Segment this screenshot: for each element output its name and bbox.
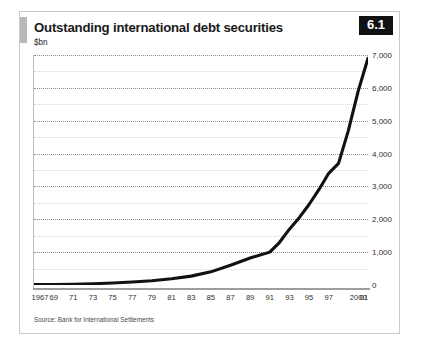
x-axis-tick-label: 87	[226, 293, 234, 302]
x-axis-tick-label: 95	[305, 293, 313, 302]
title-accent-bar	[20, 17, 27, 43]
x-axis-tick-label: 85	[207, 293, 215, 302]
x-axis-tick-label: 89	[246, 293, 254, 302]
x-axis-tick-label: 79	[148, 293, 156, 302]
source-note: Source: Bank for International Settlemen…	[34, 316, 154, 323]
x-axis-tick-label: 69	[49, 293, 57, 302]
y-axis-tick-label: 7,000	[372, 51, 392, 60]
y-axis-tick-label: 6,000	[372, 83, 392, 92]
y-axis-tick-label: 3,000	[372, 182, 392, 191]
x-axis-tick-label: 77	[128, 293, 136, 302]
x-axis-tick-label: 93	[285, 293, 293, 302]
y-axis-tick-label: 5,000	[372, 116, 392, 125]
chart-number-badge: 6.1	[359, 16, 393, 35]
series-layer	[34, 55, 368, 285]
x-axis-tick-label: 91	[266, 293, 274, 302]
chart-card: Outstanding international debt securitie…	[19, 11, 400, 334]
y-axis-tick-label: 1,000	[372, 248, 392, 257]
x-axis-tick-labels: 1967697173757779818385878991939597200001	[34, 293, 368, 307]
x-axis-tick-label: 71	[69, 293, 77, 302]
y-axis-tick-label: 4,000	[372, 149, 392, 158]
x-axis-tick-label: 83	[187, 293, 195, 302]
x-axis-baseline	[33, 288, 370, 290]
x-axis-tick-label: 01	[360, 293, 368, 302]
x-axis-tick-label: 73	[89, 293, 97, 302]
x-axis-tick-label: 97	[324, 293, 332, 302]
x-axis-tick-label: 75	[108, 293, 116, 302]
chart-title: Outstanding international debt securitie…	[34, 20, 283, 35]
x-axis-tick-label: 1967	[32, 293, 49, 302]
x-axis-tick-label: 81	[167, 293, 175, 302]
debt-securities-line	[34, 55, 368, 285]
chart-subtitle-units: $bn	[34, 38, 48, 47]
y-axis-tick-label: 2,000	[372, 215, 392, 224]
y-axis-tick-label: 0	[372, 281, 376, 290]
